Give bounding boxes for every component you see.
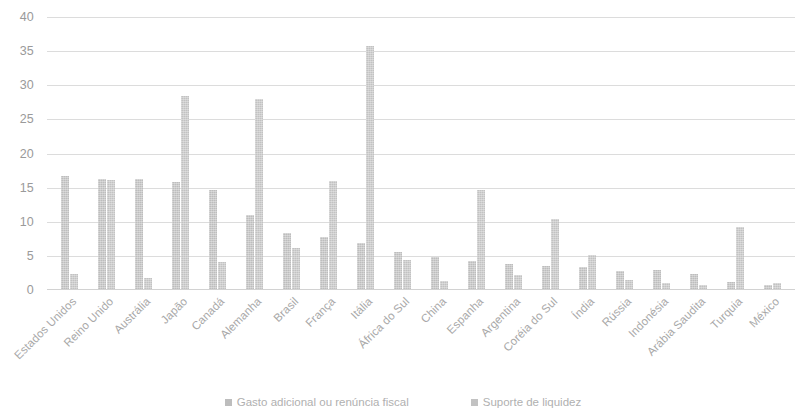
y-axis-tick-label: 0	[27, 283, 34, 297]
bar	[218, 262, 226, 290]
plot-area	[47, 17, 795, 290]
x-axis-tick-label: Canadá	[189, 295, 226, 332]
bar	[329, 181, 337, 290]
bar	[551, 219, 559, 290]
chart-legend: Gasto adicional ou renúncia fiscalSuport…	[0, 396, 806, 408]
bar	[61, 176, 69, 290]
x-axis-tick-label: Brasil	[271, 295, 300, 324]
x-axis-tick-label: Japão	[158, 295, 189, 326]
bar	[505, 264, 513, 290]
bar-group	[162, 17, 199, 290]
bar	[468, 261, 476, 290]
bar	[736, 227, 744, 290]
bar-group	[569, 17, 606, 290]
bar	[292, 248, 300, 290]
bar	[255, 99, 263, 290]
x-axis-tick-label: China	[418, 295, 448, 325]
bar-group	[495, 17, 532, 290]
bar	[70, 274, 78, 290]
y-axis-tick-label: 25	[20, 112, 34, 126]
bar	[107, 180, 115, 290]
legend-swatch-icon	[471, 399, 478, 406]
y-axis-tick-label: 5	[27, 249, 34, 263]
bar	[394, 252, 402, 290]
legend-label: Suporte de liquidez	[483, 396, 581, 408]
legend-swatch-icon	[225, 399, 232, 406]
bar	[514, 275, 522, 290]
bar	[246, 215, 254, 290]
bar-group	[51, 17, 88, 290]
bar-group	[421, 17, 458, 290]
x-axis-tick-label: França	[303, 295, 337, 329]
bar-group	[754, 17, 791, 290]
x-axis-tick-label: Itália	[348, 295, 374, 321]
legend-label: Gasto adicional ou renúncia fiscal	[237, 396, 409, 408]
bar	[403, 260, 411, 290]
bar	[98, 179, 106, 290]
bar	[181, 96, 189, 291]
y-axis-tick-label: 10	[20, 215, 34, 229]
bar	[357, 243, 365, 290]
x-axis-tick-label: México	[746, 295, 781, 330]
bar	[431, 257, 439, 290]
bar-group	[458, 17, 495, 290]
bar-group	[273, 17, 310, 290]
bar	[366, 46, 374, 290]
bar	[477, 190, 485, 290]
y-axis: 4035302520151050	[0, 17, 40, 290]
bar	[135, 179, 143, 290]
bar-group	[643, 17, 680, 290]
bar	[542, 266, 550, 290]
y-axis-tick-label: 35	[20, 44, 34, 58]
y-axis-tick-label: 30	[20, 78, 34, 92]
x-axis-tick-label: Rússia	[599, 295, 633, 329]
x-axis-tick-label: Estados Unidos	[12, 295, 78, 361]
bar-group	[717, 17, 754, 290]
bar	[653, 270, 661, 290]
bar-group	[606, 17, 643, 290]
zero-axis-line	[47, 289, 795, 290]
bar-group	[384, 17, 421, 290]
y-axis-tick-label: 20	[20, 147, 34, 161]
bar	[588, 255, 596, 290]
y-axis-tick-label: 40	[20, 10, 34, 24]
bar	[579, 267, 587, 290]
bar	[172, 182, 180, 290]
x-axis-tick-label: Austrália	[111, 295, 152, 336]
bars-layer	[47, 17, 795, 290]
legend-item[interactable]: Gasto adicional ou renúncia fiscal	[225, 396, 409, 408]
bar	[320, 237, 328, 290]
bar-group	[310, 17, 347, 290]
bar-group	[88, 17, 125, 290]
bar	[209, 190, 217, 290]
bar-chart: 4035302520151050 Estados UnidosReino Uni…	[0, 0, 806, 412]
x-axis-tick-label: Turquia	[708, 295, 744, 331]
bar-group	[236, 17, 273, 290]
bar-group	[347, 17, 384, 290]
bar	[690, 274, 698, 290]
bar-group	[199, 17, 236, 290]
bar-group	[125, 17, 162, 290]
legend-item[interactable]: Suporte de liquidez	[471, 396, 581, 408]
x-axis-tick-label: Índia	[570, 295, 596, 321]
bar	[283, 233, 291, 290]
y-axis-tick-label: 15	[20, 181, 34, 195]
bar-group	[680, 17, 717, 290]
bar-group	[532, 17, 569, 290]
bar	[616, 271, 624, 290]
